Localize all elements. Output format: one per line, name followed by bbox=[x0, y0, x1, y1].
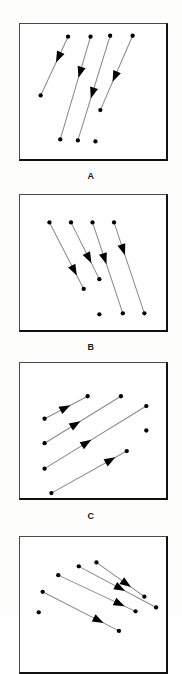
arrow-tail-dot bbox=[42, 467, 46, 471]
arrow-tip-dot bbox=[144, 404, 148, 408]
panel-label-a: A bbox=[0, 171, 182, 181]
isolated-dot-1 bbox=[37, 610, 41, 614]
arrow-tail-dot bbox=[108, 34, 112, 38]
arrow-tail-dot bbox=[77, 564, 81, 568]
isolated-dot-1 bbox=[144, 428, 148, 432]
panel-d-canvas bbox=[20, 537, 166, 672]
arrow-tail-dot bbox=[90, 220, 94, 224]
panel-b-canvas bbox=[20, 195, 166, 330]
arrow-tip-dot bbox=[142, 311, 146, 315]
arrow-4 bbox=[112, 220, 147, 315]
panel-a-canvas bbox=[20, 24, 166, 159]
arrow-1 bbox=[39, 35, 71, 98]
arrow-head bbox=[90, 87, 98, 99]
arrow-tail-dot bbox=[47, 220, 51, 224]
arrow-tail-dot bbox=[42, 417, 46, 421]
isolated-dot-1 bbox=[93, 139, 97, 143]
arrow-4 bbox=[98, 34, 135, 113]
stimulus-panel-d bbox=[19, 536, 168, 674]
arrow-stem bbox=[45, 406, 147, 469]
arrow-tip-dot bbox=[76, 138, 80, 142]
arrow-tail-dot bbox=[66, 35, 70, 39]
arrow-tail-dot bbox=[130, 34, 134, 38]
arrow-head bbox=[68, 264, 77, 276]
arrow-head bbox=[113, 598, 125, 606]
panel-label-c: C bbox=[0, 511, 182, 521]
arrow-tail-dot bbox=[56, 573, 60, 577]
arrow-3 bbox=[90, 220, 125, 315]
arrow-head bbox=[99, 252, 107, 264]
arrow-tip-dot bbox=[121, 311, 125, 315]
panel-c-canvas bbox=[20, 363, 166, 498]
arrow-stem bbox=[49, 222, 83, 289]
arrow-tip-dot bbox=[98, 108, 102, 112]
arrow-2 bbox=[58, 35, 93, 142]
arrow-tip-dot bbox=[142, 595, 146, 599]
arrow-tip-dot bbox=[125, 449, 129, 453]
arrow-3 bbox=[76, 34, 113, 143]
arrow-tail-dot bbox=[88, 35, 92, 39]
arrow-tail-dot bbox=[94, 560, 98, 564]
stimulus-panel-a bbox=[19, 23, 168, 161]
arrow-tip-dot bbox=[154, 605, 158, 609]
arrow-tip-dot bbox=[117, 629, 121, 633]
arrow-tail-dot bbox=[112, 220, 116, 224]
arrow-head bbox=[104, 457, 116, 466]
arrow-tip-dot bbox=[133, 609, 137, 613]
arrow-tip-dot bbox=[58, 137, 62, 141]
arrow-stem bbox=[60, 37, 90, 140]
panel-label-b: B bbox=[0, 342, 182, 352]
arrow-tail-dot bbox=[49, 491, 53, 495]
arrow-head bbox=[80, 440, 92, 449]
arrow-tip-dot bbox=[119, 394, 123, 398]
arrow-tip-dot bbox=[82, 287, 86, 291]
arrow-tail-dot bbox=[69, 220, 73, 224]
arrow-tail-dot bbox=[42, 441, 46, 445]
arrow-stem bbox=[41, 37, 68, 96]
arrow-head bbox=[92, 614, 104, 623]
arrow-head bbox=[119, 577, 131, 587]
arrow-2 bbox=[42, 394, 123, 445]
isolated-dot-1 bbox=[97, 312, 101, 316]
arrow-head bbox=[113, 70, 121, 82]
arrow-head bbox=[83, 251, 92, 263]
arrow-head bbox=[69, 421, 81, 430]
arrow-head bbox=[59, 405, 71, 414]
arrow-1 bbox=[47, 220, 86, 291]
stimulus-panel-c bbox=[19, 362, 168, 500]
arrow-2 bbox=[94, 560, 146, 599]
arrow-stem bbox=[45, 396, 121, 443]
arrow-tail-dot bbox=[40, 590, 44, 594]
stimulus-panel-b bbox=[19, 194, 168, 332]
arrow-tip-dot bbox=[85, 394, 89, 398]
arrow-3 bbox=[42, 404, 148, 471]
arrow-head bbox=[56, 51, 64, 63]
arrow-head bbox=[78, 66, 86, 78]
arrow-3 bbox=[40, 590, 121, 633]
arrow-1 bbox=[42, 394, 89, 421]
arrow-tip-dot bbox=[97, 277, 101, 281]
arrow-4 bbox=[49, 449, 129, 495]
arrow-head bbox=[117, 243, 125, 255]
arrow-1 bbox=[56, 573, 138, 614]
arrow-tip-dot bbox=[39, 93, 43, 97]
